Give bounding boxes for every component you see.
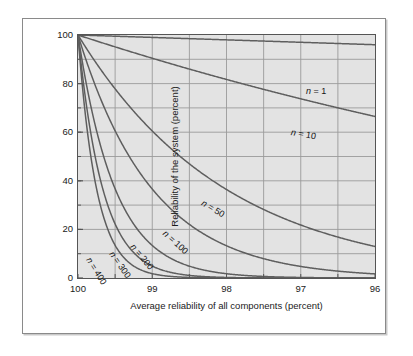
x-tick-label: 97 — [295, 284, 306, 294]
y-tick-label: 100 — [57, 30, 73, 40]
y-tick-label: 80 — [62, 79, 73, 89]
plot-canvas — [78, 35, 375, 278]
plot-area: 020406080100 10099989796 n = 1n = 10n = … — [77, 34, 376, 279]
x-tick-label: 99 — [147, 284, 158, 294]
y-axis-title: Reliability of the system (percent) — [168, 34, 182, 279]
x-tick-label: 100 — [70, 284, 86, 294]
x-tick-label: 96 — [370, 284, 381, 294]
x-axis-title: Average reliability of all components (p… — [77, 300, 376, 311]
figure-frame: 020406080100 10099989796 n = 1n = 10n = … — [22, 18, 386, 334]
y-tick-label: 40 — [62, 176, 73, 186]
x-tick-label: 98 — [221, 284, 232, 294]
y-tick-label: 0 — [68, 273, 73, 283]
curve-label-1: n = 1 — [306, 87, 326, 96]
y-tick-label: 60 — [62, 127, 73, 137]
y-tick-label: 20 — [62, 225, 73, 235]
